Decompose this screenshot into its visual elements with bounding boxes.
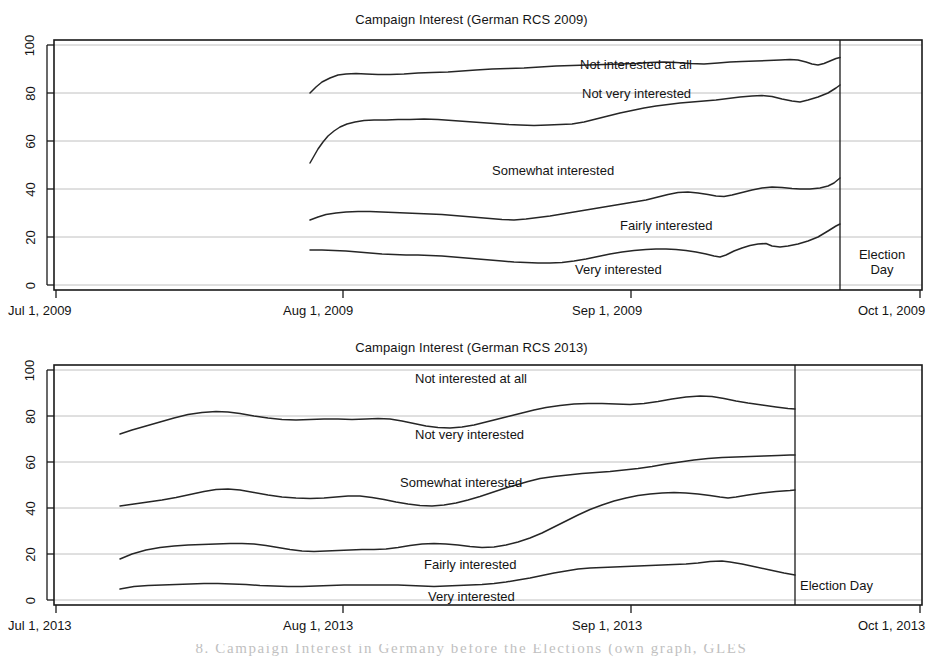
y-tickmarks-2013 [47, 370, 54, 600]
y-tick-label-2009-100: 100 [22, 31, 37, 61]
plot-area-2009 [0, 0, 943, 330]
series-label-2013-fairly-interested: Fairly interested [424, 557, 516, 572]
series-line-somewhat-interested-2009 [310, 178, 840, 220]
series-line-not-very-interested-2009 [310, 85, 840, 163]
y-tick-label-2013-60: 60 [23, 451, 38, 475]
series-label-2013-very-interested: Very interested [428, 589, 515, 604]
y-tick-label-2009-20: 20 [23, 226, 38, 250]
election-day-label-2009-line1: Election [845, 248, 919, 263]
series-label-2013-not-very-interested: Not very interested [415, 427, 524, 442]
series-line-not-interested-at-all-2009 [310, 58, 840, 94]
y-tick-label-2009-0: 0 [23, 278, 38, 294]
series-line-fairly-interested-2009 [310, 224, 840, 263]
x-tick-label-2009-sep: Sep 1, 2009 [572, 303, 642, 318]
x-tick-label-2013-aug: Aug 1, 2013 [283, 618, 353, 633]
y-tick-label-2009-60: 60 [23, 130, 38, 154]
figure-page: Campaign Interest (German RCS 2009) [0, 0, 943, 660]
x-tick-label-2013-oct: Oct 1, 2013 [858, 618, 925, 633]
x-tick-label-2009-aug: Aug 1, 2009 [283, 303, 353, 318]
y-tick-label-2013-100: 100 [22, 356, 37, 386]
y-tick-label-2013-0: 0 [23, 593, 38, 609]
series-label-2009-somewhat-interested: Somewhat interested [492, 163, 614, 178]
y-tick-label-2013-80: 80 [23, 405, 38, 429]
x-tick-label-2009-jul: Jul 1, 2009 [8, 303, 72, 318]
x-tickmarks-2009 [56, 290, 920, 298]
y-tick-label-2009-80: 80 [23, 82, 38, 106]
chart-panel-2013: Campaign Interest (German RCS 2013) [0, 330, 943, 642]
series-label-2009-not-interested-at-all: Not interested at all [580, 57, 692, 72]
chart-panel-2009: Campaign Interest (German RCS 2009) [0, 0, 943, 330]
election-day-label-2009-line2: Day [845, 263, 919, 278]
x-tick-label-2009-oct: Oct 1, 2009 [858, 303, 925, 318]
series-line-somewhat-interested-2013 [120, 490, 795, 559]
x-tick-label-2013-sep: Sep 1, 2013 [572, 618, 642, 633]
series-label-2009-very-interested: Very interested [575, 262, 662, 277]
y-tick-label-2013-40: 40 [23, 497, 38, 521]
figure-caption-text: 8. Campaign Interest in Germany before t… [0, 644, 943, 657]
y-tick-label-2013-20: 20 [23, 543, 38, 567]
x-tickmarks-2013 [56, 605, 920, 613]
election-day-label-2013: Election Day [800, 579, 920, 594]
series-label-2013-somewhat-interested: Somewhat interested [400, 475, 522, 490]
election-day-label-2009: Election Day [845, 248, 919, 278]
y-tickmarks-2009 [47, 45, 54, 285]
figure-caption-partial: 8. Campaign Interest in Germany before t… [0, 644, 943, 660]
x-tick-label-2013-jul: Jul 1, 2013 [8, 618, 72, 633]
plot-frame-2009 [54, 40, 922, 290]
series-label-2009-fairly-interested: Fairly interested [620, 218, 712, 233]
series-label-2009-not-very-interested: Not very interested [582, 86, 691, 101]
series-label-2013-not-interested-at-all: Not interested at all [415, 371, 527, 386]
gridlines-2009 [54, 45, 922, 285]
y-tick-label-2009-40: 40 [23, 178, 38, 202]
